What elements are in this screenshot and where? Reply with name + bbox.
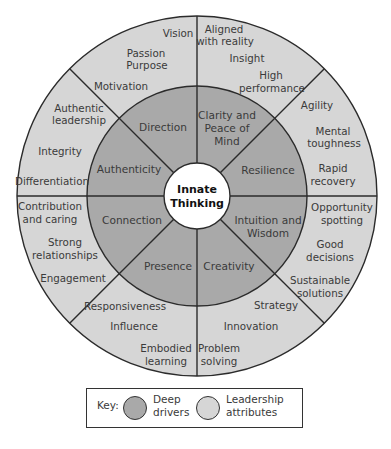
- attr-mental-line2: toughness: [307, 137, 361, 149]
- attr-rapid-line1: Rapid: [318, 162, 347, 174]
- core-label-line2: Thinking: [170, 197, 224, 210]
- attr-sustainable-line2: solutions: [297, 287, 343, 299]
- attr-mental-line1: Mental: [316, 125, 351, 137]
- driver-clarity-line2: Peace of: [205, 122, 250, 134]
- driver-resilience: Resilience: [241, 164, 294, 176]
- attr-authentic-line2: leadership: [52, 114, 106, 126]
- attr-opportunity-line2: spotting: [321, 214, 363, 226]
- attr-purpose: Purpose: [126, 59, 167, 71]
- attr-strong-line1: Strong: [48, 236, 82, 248]
- driver-connection: Connection: [102, 214, 162, 226]
- innate-thinking-core: [164, 163, 230, 229]
- attr-strategy: Strategy: [254, 299, 298, 311]
- attr-passion: Passion: [127, 47, 165, 59]
- driver-presence: Presence: [144, 260, 192, 272]
- attr-vision: Vision: [163, 27, 194, 39]
- attr-strong-line2: relationships: [32, 249, 98, 261]
- driver-clarity-line3: Mind: [214, 135, 240, 147]
- driver-intuition-line1: Intuition and: [234, 214, 301, 226]
- attr-aligned-line1: Aligned: [205, 23, 244, 35]
- deep-drivers-swatch-icon: [123, 396, 147, 420]
- attr-innovation: Innovation: [224, 320, 279, 332]
- attr-agility: Agility: [301, 99, 333, 111]
- attr-motivation: Motivation: [94, 80, 148, 92]
- legend-deep-line1: Deep: [153, 393, 181, 405]
- legend: Key: Deep drivers Leadership attributes: [86, 388, 303, 428]
- attr-embodied-line2: learning: [145, 355, 187, 367]
- attr-aligned-line2: with reality: [196, 35, 254, 47]
- attr-sustainable-line1: Sustainable: [290, 274, 350, 286]
- innate-thinking-wheel: Innate Thinking Direction Clarity and Pe…: [0, 0, 391, 449]
- attr-responsiveness: Responsiveness: [84, 300, 166, 312]
- legend-leader-line1: Leadership: [226, 393, 284, 405]
- core-label-line1: Innate: [177, 183, 217, 196]
- attr-problem-line2: solving: [201, 355, 238, 367]
- attr-opportunity-line1: Opportunity: [311, 201, 373, 213]
- driver-intuition-line2: Wisdom: [247, 227, 289, 239]
- attr-differentiation: Differentiation: [15, 175, 89, 187]
- driver-creativity: Creativity: [203, 260, 254, 272]
- legend-leader-line2: attributes: [226, 406, 277, 418]
- attr-insight: Insight: [230, 52, 265, 64]
- attr-embodied-line1: Embodied: [140, 342, 192, 354]
- attr-authentic-line1: Authentic: [54, 102, 104, 114]
- attr-integrity: Integrity: [38, 145, 82, 157]
- attr-contribution-line2: and caring: [23, 213, 78, 225]
- attr-high-line2: performance: [239, 82, 305, 94]
- legend-deep-drivers: Deep drivers: [153, 393, 189, 419]
- attr-contribution-line1: Contribution: [18, 200, 82, 212]
- leadership-attributes-swatch-icon: [196, 396, 220, 420]
- driver-authenticity: Authenticity: [97, 163, 161, 175]
- driver-direction: Direction: [139, 121, 187, 133]
- attr-rapid-line2: recovery: [310, 175, 355, 187]
- attr-engagement: Engagement: [40, 272, 106, 284]
- attr-good-line2: decisions: [306, 251, 354, 263]
- legend-key-label: Key:: [97, 399, 119, 411]
- attr-high-line1: High: [259, 69, 283, 81]
- driver-clarity-line1: Clarity and: [198, 109, 256, 121]
- attr-problem-line1: Problem: [198, 342, 240, 354]
- legend-leadership-attributes: Leadership attributes: [226, 393, 284, 419]
- legend-deep-line2: drivers: [153, 406, 189, 418]
- attr-influence: Influence: [110, 320, 157, 332]
- attr-good-line1: Good: [316, 238, 343, 250]
